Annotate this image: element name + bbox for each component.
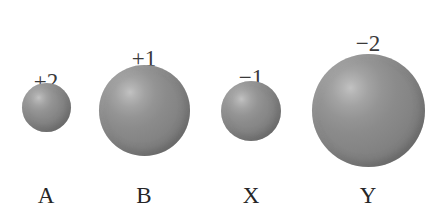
ion-sphere-x <box>221 81 281 141</box>
ion-name-label-x: X <box>211 184 291 207</box>
ion-sphere-y <box>312 54 425 167</box>
ion-size-figure: +2 A +1 B −1 X −2 Y <box>0 0 444 213</box>
ion-sphere-b <box>99 65 190 156</box>
charge-label-y: −2 <box>328 32 408 55</box>
ion-name-label-b: B <box>104 184 184 207</box>
ion-name-label-a: A <box>6 184 86 207</box>
ion-sphere-a <box>22 83 71 132</box>
ion-name-label-y: Y <box>328 184 408 207</box>
